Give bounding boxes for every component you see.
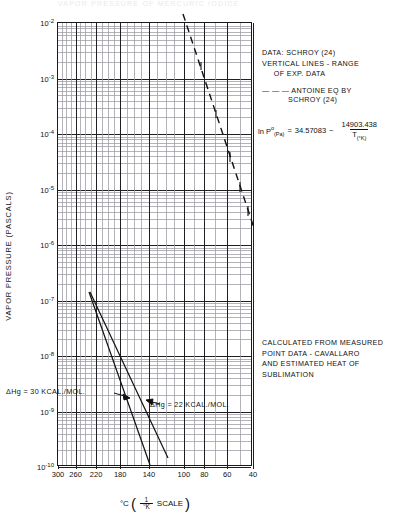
- y-axis-title: VAPOR PRESSURE (PASCALS): [4, 191, 13, 320]
- scale-word: SCALE: [157, 499, 183, 508]
- x-axis-title: °C ( 1 °K SCALE ): [120, 495, 190, 512]
- dashed-line-key: — — — ANTOINE EQ BY SCHROY (24): [262, 86, 352, 104]
- equation-minus: −: [329, 126, 333, 135]
- x-axis-unit: °C: [120, 499, 129, 508]
- equation-lhs: ln Po(Pa): [258, 125, 284, 137]
- delta-h-30-label: ΔHg = 30 KCAL./MOL.: [6, 387, 85, 396]
- delta-h-22-line: [90, 292, 168, 458]
- experimental-range-vertical-ticks: [201, 62, 248, 216]
- paren-close: ): [185, 495, 190, 512]
- legend-annotation: DATA: SCHROY (24) VERTICAL LINES - RANGE…: [262, 48, 359, 80]
- dashed-line-key-line1: — — — ANTOINE EQ BY: [262, 86, 352, 95]
- delta-h-30-line: [89, 292, 150, 465]
- equation-fraction: 14903.438 T(°K): [339, 120, 378, 142]
- antoine-equation: ln Po(Pa) = 34.57083 − 14903.438 T(°K): [258, 120, 382, 142]
- reciprocal-kelvin-fraction: 1 °K: [140, 497, 153, 511]
- paren-open: (: [131, 495, 136, 512]
- calculated-from-annotation: CALCULATED FROM MEASURED POINT DATA - CA…: [262, 338, 383, 380]
- delta-h-22-label: ΔHg = 22 KCAL./MOL.: [150, 400, 229, 409]
- dashed-line-key-line2: SCHROY (24): [262, 95, 352, 104]
- antoine-dashed-line: [183, 14, 254, 228]
- equation-denominator: T(°K): [350, 129, 368, 141]
- equation-equals: =: [287, 126, 291, 135]
- equation-intercept: 34.57083: [295, 126, 326, 135]
